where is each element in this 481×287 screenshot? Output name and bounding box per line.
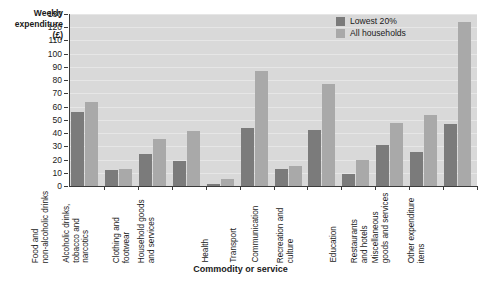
y-axis-tick-mark — [64, 14, 68, 15]
y-axis-tick-label: 30 — [53, 142, 62, 151]
bar-all-households — [424, 115, 437, 186]
bar-all-households — [85, 102, 98, 186]
x-axis-category-labels: Food andnon-alcoholic drinksAlcoholic dr… — [69, 191, 476, 263]
x-axis-category-label-line: Restaurants — [350, 219, 360, 263]
y-axis-tick-mark — [64, 80, 68, 81]
x-axis-category-label-line: Transport — [229, 228, 239, 263]
bar-lowest-20 — [207, 184, 220, 186]
y-axis-tick-label: 10 — [53, 169, 62, 178]
bar-all-households — [255, 71, 268, 186]
x-axis-tick-mark — [274, 186, 275, 190]
y-axis-tick-label: 80 — [53, 76, 62, 85]
x-axis-tick-mark — [206, 186, 207, 190]
bar-chart: Weekly expenditure (£) 01020304050607080… — [0, 0, 481, 287]
x-axis-category-label-line: Food and — [31, 191, 41, 263]
x-axis-category-label: Household goodsand services — [171, 191, 205, 263]
x-axis-category-label-line: Other expenditure — [407, 197, 417, 263]
x-axis-tick-mark — [104, 186, 105, 190]
bar-lowest-20 — [342, 174, 355, 186]
bar-group — [240, 14, 274, 186]
x-axis-category-label-line: non-alcoholic drinks — [40, 191, 50, 263]
bar-lowest-20 — [308, 130, 321, 186]
x-axis-tick-mark — [172, 186, 173, 190]
x-axis-category-label-line: items — [417, 197, 427, 263]
bar-lowest-20 — [173, 161, 186, 186]
y-axis-tick-mark — [64, 54, 68, 55]
x-axis-category-label-line: culture — [286, 207, 296, 263]
y-axis-tick-label: 100 — [48, 50, 62, 59]
bar-group — [274, 14, 308, 186]
bar-lowest-20 — [241, 128, 254, 186]
y-axis-tick-mark — [64, 107, 68, 108]
x-axis-category-label-line: Education — [329, 227, 339, 263]
bar-lowest-20 — [105, 170, 118, 186]
x-axis-category-label-line: tobacco and — [71, 204, 81, 263]
bar-groups — [70, 14, 477, 186]
y-axis-tick-mark — [64, 186, 68, 187]
bar-group — [206, 14, 240, 186]
bar-all-households — [153, 139, 166, 186]
y-axis-tick-mark — [64, 146, 68, 147]
x-axis-tick-mark — [341, 186, 342, 190]
bar-all-households — [289, 166, 302, 187]
bar-lowest-20 — [71, 112, 84, 186]
x-axis-title: Commodity or service — [0, 264, 481, 274]
x-axis-tick-mark — [409, 186, 410, 190]
bar-lowest-20 — [444, 124, 457, 186]
x-axis-category-label-line: and hotels — [360, 219, 370, 263]
y-axis-tick-mark — [64, 93, 68, 94]
y-axis: 0102030405060708090100110120130 — [0, 14, 67, 186]
y-axis-tick-label: 70 — [53, 89, 62, 98]
y-axis-tick-mark — [64, 27, 68, 28]
bar-all-households — [119, 169, 132, 186]
x-axis-tick-mark — [477, 186, 478, 190]
x-axis-category-label-line: goods and services — [380, 192, 390, 263]
x-axis-category-label: Other expenditureitems — [442, 191, 476, 263]
legend: Lowest 20% All households — [336, 17, 406, 41]
bar-group — [138, 14, 172, 186]
bar-all-households — [356, 160, 369, 186]
x-axis-category-label-line: and services — [146, 199, 156, 263]
x-axis-tick-mark — [240, 186, 241, 190]
bar-lowest-20 — [275, 169, 288, 186]
legend-label-all-households: All households — [350, 29, 406, 38]
bar-group — [409, 14, 443, 186]
bar-all-households — [322, 84, 335, 186]
x-axis-category-label-line: Household goods — [137, 199, 147, 263]
y-axis-tick-label: 50 — [53, 116, 62, 125]
x-axis-tick-mark — [138, 186, 139, 190]
x-axis-category-label-line: narcotics — [81, 204, 91, 263]
x-axis-category-label-line: Clothing and — [112, 217, 122, 263]
y-axis-tick-label: 110 — [48, 36, 62, 45]
y-axis-tick-label: 60 — [53, 103, 62, 112]
bar-group — [443, 14, 477, 186]
x-axis-category-label-line: Miscellaneous — [371, 192, 381, 263]
x-axis-category-label-line: Health — [200, 239, 210, 263]
plot-area — [69, 14, 477, 187]
x-axis-category-label-line: Alcoholic drinks, — [62, 204, 72, 263]
bar-lowest-20 — [376, 145, 389, 186]
y-axis-tick-label: 90 — [53, 63, 62, 72]
y-axis-tick-mark — [64, 40, 68, 41]
x-axis-category-label-line: Communication — [251, 206, 261, 263]
legend-label-lowest-20: Lowest 20% — [350, 17, 397, 26]
legend-item-all-households: All households — [336, 29, 406, 38]
bar-group — [70, 14, 104, 186]
bar-all-households — [458, 22, 471, 186]
y-axis-tick-label: 130 — [48, 10, 62, 19]
y-axis-tick-label: 120 — [48, 23, 62, 32]
bar-group — [172, 14, 206, 186]
bar-lowest-20 — [410, 152, 423, 186]
bar-all-households — [221, 179, 234, 186]
bar-lowest-20 — [139, 154, 152, 186]
x-axis-category-label-line: Recreation and — [276, 207, 286, 263]
y-axis-tick-mark — [64, 67, 68, 68]
y-axis-tick-mark — [64, 173, 68, 174]
x-axis-category-label-line: footwear — [121, 217, 131, 263]
y-axis-tick-mark — [64, 160, 68, 161]
y-axis-tick-label: 20 — [53, 156, 62, 165]
legend-item-lowest-20: Lowest 20% — [336, 17, 406, 26]
bar-all-households — [187, 131, 200, 186]
legend-swatch-icon-all-households — [336, 29, 345, 38]
bar-all-households — [390, 123, 403, 187]
